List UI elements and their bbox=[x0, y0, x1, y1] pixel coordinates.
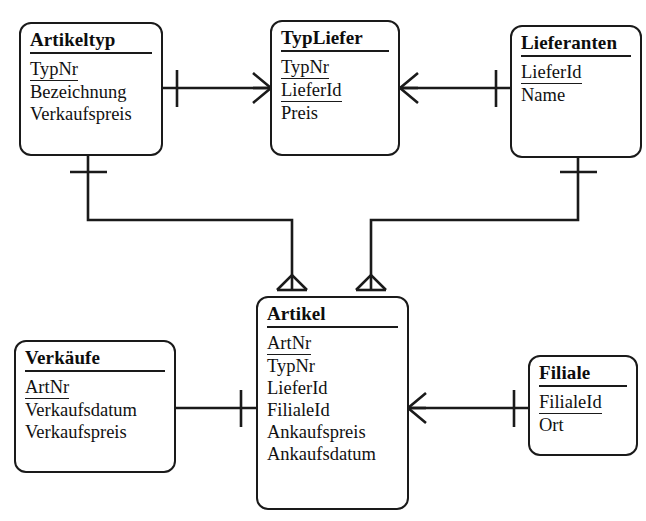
attribute-label: Ort bbox=[539, 415, 564, 435]
attribute-row: LieferId bbox=[521, 61, 631, 84]
attribute-row: Ort bbox=[539, 414, 627, 436]
relationship-artikeltyp-typliefer bbox=[162, 70, 271, 107]
relationship-artikel-filiale bbox=[408, 390, 529, 427]
entity-lieferanten-attributes: LieferId Name bbox=[521, 61, 631, 106]
entity-artikeltyp[interactable]: Artikeltyp TypNr Bezeichnung Verkaufspre… bbox=[19, 22, 163, 156]
attribute-label: Bezeichnung bbox=[30, 82, 127, 102]
attribute-label: Name bbox=[521, 85, 565, 105]
attribute-row: ArtNr bbox=[267, 332, 398, 355]
entity-verkaeufe-attributes: ArtNr Verkaufsdatum Verkaufspreis bbox=[25, 376, 165, 443]
attribute-label: LieferId bbox=[267, 378, 328, 398]
attribute-row: TypNr bbox=[281, 56, 389, 79]
attribute-row: Name bbox=[521, 84, 631, 106]
attribute-row: TypNr bbox=[267, 355, 398, 377]
attribute-label-primary-key: TypNr bbox=[281, 56, 329, 79]
entity-artikeltyp-title-rule bbox=[30, 52, 152, 54]
attribute-label: TypNr bbox=[267, 356, 315, 376]
entity-verkaeufe[interactable]: Verkäufe ArtNr Verkaufsdatum Verkaufspre… bbox=[14, 340, 176, 473]
attribute-row: ArtNr bbox=[25, 376, 165, 399]
attribute-row: Bezeichnung bbox=[30, 81, 152, 103]
entity-filiale-title-rule bbox=[539, 385, 627, 387]
entity-artikeltyp-title: Artikeltyp bbox=[30, 29, 152, 50]
entity-artikel-title-rule bbox=[267, 326, 398, 328]
attribute-row: Ankaufspreis bbox=[267, 421, 398, 443]
attribute-row: Verkaufspreis bbox=[25, 421, 165, 443]
relationship-lieferanten-artikel bbox=[356, 158, 597, 290]
entity-lieferanten-title: Lieferanten bbox=[521, 32, 631, 53]
attribute-label: Verkaufsdatum bbox=[25, 400, 137, 420]
relationship-verkaeufe-artikel bbox=[175, 390, 257, 427]
entity-lieferanten[interactable]: Lieferanten LieferId Name bbox=[510, 25, 642, 158]
er-diagram-canvas: Artikeltyp TypNr Bezeichnung Verkaufspre… bbox=[0, 0, 646, 521]
entity-artikeltyp-attributes: TypNr Bezeichnung Verkaufspreis bbox=[30, 58, 152, 125]
entity-typliefer-title-rule bbox=[281, 50, 389, 52]
entity-filiale-title: Filiale bbox=[539, 362, 627, 383]
attribute-label: Ankaufsdatum bbox=[267, 444, 376, 464]
entity-filiale-attributes: FilialeId Ort bbox=[539, 391, 627, 436]
entity-artikel-title: Artikel bbox=[267, 303, 398, 324]
attribute-row: Ankaufsdatum bbox=[267, 443, 398, 465]
entity-filiale[interactable]: Filiale FilialeId Ort bbox=[528, 355, 638, 456]
attribute-row: Preis bbox=[281, 102, 389, 124]
entity-artikel[interactable]: Artikel ArtNr TypNr LieferId FilialeId A… bbox=[256, 296, 409, 510]
relationship-typliefer-lieferanten bbox=[400, 70, 511, 107]
attribute-row: Verkaufsdatum bbox=[25, 399, 165, 421]
attribute-label-primary-key: ArtNr bbox=[25, 376, 69, 399]
relationship-artikeltyp-artikel bbox=[70, 155, 307, 290]
entity-typliefer-title: TypLiefer bbox=[281, 27, 389, 48]
entity-typliefer-attributes: TypNr LieferId Preis bbox=[281, 56, 389, 124]
attribute-label-primary-key: LieferId bbox=[521, 61, 582, 84]
attribute-label: Verkaufspreis bbox=[30, 104, 132, 124]
entity-lieferanten-title-rule bbox=[521, 55, 631, 57]
attribute-label-primary-key: TypNr bbox=[30, 58, 78, 81]
attribute-label: FilialeId bbox=[267, 400, 330, 420]
attribute-row: Verkaufspreis bbox=[30, 103, 152, 125]
attribute-row: LieferId bbox=[267, 377, 398, 399]
attribute-label: Preis bbox=[281, 103, 318, 123]
attribute-label: Verkaufspreis bbox=[25, 422, 127, 442]
attribute-row: FilialeId bbox=[267, 399, 398, 421]
attribute-row: TypNr bbox=[30, 58, 152, 81]
attribute-row: FilialeId bbox=[539, 391, 627, 414]
entity-artikel-attributes: ArtNr TypNr LieferId FilialeId Ankaufspr… bbox=[267, 332, 398, 465]
attribute-label-primary-key: FilialeId bbox=[539, 391, 602, 414]
entity-typliefer[interactable]: TypLiefer TypNr LieferId Preis bbox=[270, 20, 400, 156]
attribute-label: Ankaufspreis bbox=[267, 422, 366, 442]
attribute-row: LieferId bbox=[281, 79, 389, 102]
attribute-label-primary-key: LieferId bbox=[281, 79, 342, 102]
entity-verkaeufe-title-rule bbox=[25, 370, 165, 372]
attribute-label-primary-key: ArtNr bbox=[267, 332, 311, 355]
entity-verkaeufe-title: Verkäufe bbox=[25, 347, 165, 368]
